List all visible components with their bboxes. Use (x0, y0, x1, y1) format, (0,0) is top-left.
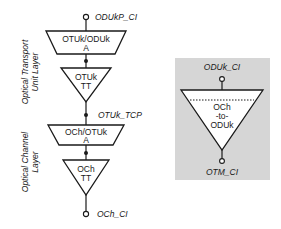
right-bottom-connection-point (220, 159, 225, 164)
junction-dot (84, 151, 88, 155)
layer-1-label-line1: Optical Transport (20, 39, 30, 104)
middle-point-label: OTUk_TCP (98, 110, 142, 120)
termination-1-line2: TT (81, 81, 91, 91)
right-top-connection-point (220, 77, 225, 82)
bottom-point-label: OCh_CI (97, 209, 128, 219)
right-bottom-point-label: OTM_CI (206, 167, 239, 177)
diagram-canvas: ODUkP_CI OTUk/ODUk A OTUk TT OTUk_TCP OC… (0, 0, 281, 229)
layer-2-label-line1: Optical Channel (20, 131, 30, 193)
adaptation-2-line2: A (83, 135, 89, 145)
top-connection-point (83, 14, 88, 19)
termination-2-line2: TT (81, 173, 91, 183)
top-point-label: ODUkP_CI (95, 12, 138, 22)
junction-dot (84, 59, 88, 63)
adaptation-1-line2: A (83, 43, 89, 53)
layer-1-label-line2: Unit Layer (30, 51, 40, 91)
bottom-connection-point (83, 211, 88, 216)
junction-dot (84, 113, 88, 117)
layer-2-label-line2: Layer (30, 150, 40, 172)
right-top-point-label: ODUk_CI (204, 62, 241, 72)
function-line3: ODUk (210, 120, 234, 130)
